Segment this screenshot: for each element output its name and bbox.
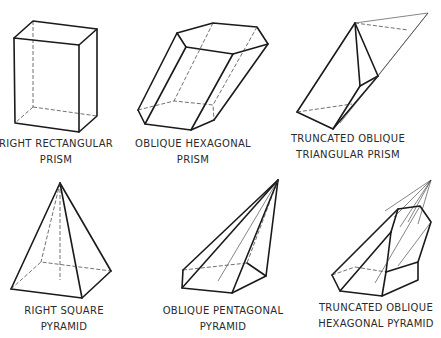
label-right-rectangular-prism: RIGHT RECTANGULAR PRISM [0, 136, 113, 168]
truncated-oblique-triangular-prism-drawing [297, 13, 428, 129]
oblique-pentagonal-pyramid-drawing [182, 180, 278, 293]
label-oblique-hexagonal-prism: OBLIQUE HEXAGONAL PRISM [135, 136, 251, 168]
label-right-square-pyramid: RIGHT SQUARE PYRAMID [24, 303, 104, 335]
right-square-pyramid-drawing [11, 183, 111, 298]
label-oblique-pentagonal-pyramid: OBLIQUE PENTAGONAL PYRAMID [163, 303, 284, 335]
label-truncated-oblique-triangular-prism: TRUNCATED OBLIQUE TRIANGULAR PRISM [291, 131, 405, 163]
oblique-hexagonal-prism-drawing [138, 23, 268, 130]
truncated-oblique-hexagonal-pyramid-drawing [332, 180, 431, 296]
right-rectangular-prism-drawing [14, 21, 97, 132]
solids-diagram [0, 0, 441, 338]
label-truncated-oblique-hexagonal-pyramid: TRUNCATED OBLIQUE HEXAGONAL PYRAMID [318, 300, 434, 332]
